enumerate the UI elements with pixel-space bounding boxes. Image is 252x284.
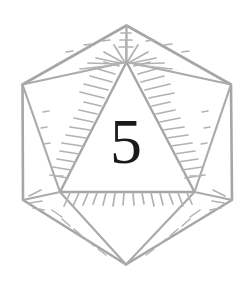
d20-die-illustration: 5 — [0, 0, 252, 284]
die-face-value: 5 — [0, 110, 252, 174]
hatch-bottom-face — [64, 193, 192, 206]
edge-lower-right-to-inner-bottom-right — [195, 192, 233, 200]
